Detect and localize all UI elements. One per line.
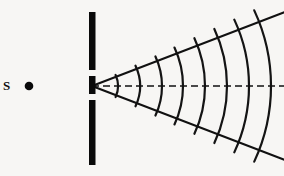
- source-label: S: [3, 79, 10, 92]
- barrier-segment-1: [89, 12, 96, 70]
- upper-boundary-ray: [92, 12, 284, 86]
- diffraction-figure: S: [0, 0, 284, 176]
- barrier-segment-2: [89, 76, 96, 94]
- figure-canvas: [0, 0, 284, 176]
- barrier-segment-3: [89, 100, 96, 165]
- lower-boundary-ray: [92, 86, 284, 160]
- barrier-group: [89, 12, 96, 165]
- point-source-dot: [25, 82, 34, 91]
